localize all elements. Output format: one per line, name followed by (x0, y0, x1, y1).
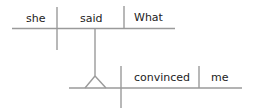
subordinate-object-me: me (211, 72, 228, 84)
object-what: What (134, 12, 163, 24)
verb-said: said (80, 13, 103, 25)
subordinate-verb-convinced: convinced (134, 72, 190, 84)
pedestal-right-leg (95, 76, 106, 88)
pedestal-left-leg (85, 76, 95, 88)
subject-she: she (26, 13, 45, 25)
